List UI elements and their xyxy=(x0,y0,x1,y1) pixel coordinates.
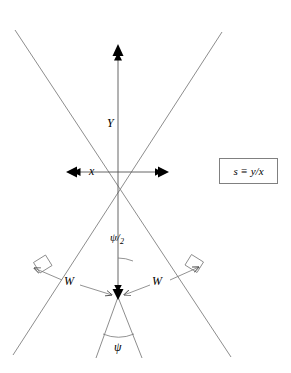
half-angle-arc xyxy=(118,258,133,261)
label-width-right: W xyxy=(152,275,162,287)
label-opening-angle: ψ xyxy=(114,341,121,353)
geometry-svg xyxy=(0,0,291,373)
half-angle-symbol: ψ xyxy=(110,231,117,243)
line-inner-right xyxy=(118,297,142,358)
top-apex-arrowhead xyxy=(113,44,124,56)
formula-box: s ≡ y/x xyxy=(219,158,278,184)
half-angle-subscript: 2 xyxy=(120,237,124,246)
formula-text: s ≡ y/x xyxy=(220,159,277,183)
label-vertical-distance: Y xyxy=(107,117,114,129)
label-width-left: W xyxy=(64,275,74,287)
x-left-arrowhead xyxy=(66,167,77,178)
line-outer-right xyxy=(13,32,222,355)
w-right-leader-outward xyxy=(170,267,199,280)
w-left-leader-inward xyxy=(80,285,112,295)
bottom-vertex-arrowhead xyxy=(113,289,124,300)
full-angle-arc xyxy=(103,334,134,337)
label-horizontal-distance: x xyxy=(89,165,94,177)
diagram-canvas: Y x ψ/2 W W ψ s ≡ y/x xyxy=(0,0,291,373)
right-perpendicular-mark xyxy=(185,255,204,273)
construction-lines xyxy=(13,30,231,358)
w-left-leader-outward xyxy=(34,268,62,280)
w-right-leader-inward xyxy=(124,285,150,295)
right-angle-marks xyxy=(34,255,204,274)
left-perpendicular-mark xyxy=(34,255,53,273)
label-half-angle: ψ/2 xyxy=(110,232,124,246)
x-right-arrowhead xyxy=(158,167,169,178)
line-outer-left xyxy=(15,30,231,357)
